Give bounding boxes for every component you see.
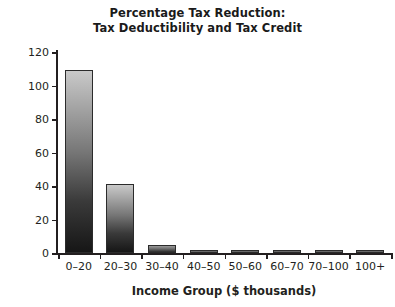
bar-60-70[interactable] xyxy=(273,250,301,253)
y-axis-tick-label: 0 xyxy=(42,248,49,259)
bar-50-60[interactable] xyxy=(231,250,259,253)
x-axis-category-label: 100+ xyxy=(355,261,385,272)
y-axis-tick-label: 120 xyxy=(28,47,49,58)
chart-title-line-2: Tax Deductibility and Tax Credit xyxy=(0,21,395,36)
x-axis-tick xyxy=(225,253,227,259)
x-axis-tick xyxy=(308,253,310,259)
x-axis-category-label: 50–60 xyxy=(229,261,263,272)
x-axis-tick xyxy=(391,253,393,259)
x-axis-category-label: 40–50 xyxy=(187,261,221,272)
x-axis-category-label: 30–40 xyxy=(145,261,179,272)
x-axis-category-label: 70–100 xyxy=(308,261,349,272)
bar-slot xyxy=(183,52,225,253)
chart-title-line-1: Percentage Tax Reduction: xyxy=(0,6,395,21)
bar-slot xyxy=(308,52,350,253)
bar-40-50[interactable] xyxy=(190,250,218,253)
x-axis-tick xyxy=(266,253,268,259)
y-axis-tick-label: 20 xyxy=(35,214,49,225)
y-axis-tick-label: 100 xyxy=(28,80,49,91)
bar-0-20[interactable] xyxy=(65,70,93,253)
y-axis-tick-label: 60 xyxy=(35,147,49,158)
bar-slot xyxy=(141,52,183,253)
bar-70-100[interactable] xyxy=(315,250,343,253)
bar-slot xyxy=(266,52,308,253)
bar-100-[interactable] xyxy=(356,250,384,253)
x-axis-category-label: 60–70 xyxy=(270,261,304,272)
x-axis-tick xyxy=(141,253,143,259)
x-axis-tick xyxy=(100,253,102,259)
plot-area: 020406080100120 xyxy=(58,52,391,253)
bar-slot xyxy=(225,52,267,253)
x-axis-title: Income Group ($ thousands) xyxy=(56,284,392,298)
bar-20-30[interactable] xyxy=(106,184,134,253)
bar-slot xyxy=(100,52,142,253)
chart-title: Percentage Tax Reduction: Tax Deductibil… xyxy=(0,6,395,36)
x-axis-category-label: 20–30 xyxy=(104,261,138,272)
y-axis-tick-label: 80 xyxy=(35,114,49,125)
x-axis-tick xyxy=(58,253,60,259)
bar-slot xyxy=(58,52,100,253)
x-axis-category-label: 0–20 xyxy=(66,261,93,272)
x-axis-tick xyxy=(183,253,185,259)
x-axis-tick xyxy=(349,253,351,259)
bar-slot xyxy=(349,52,391,253)
y-axis-tick-label: 40 xyxy=(35,181,49,192)
bar-30-40[interactable] xyxy=(148,245,176,253)
